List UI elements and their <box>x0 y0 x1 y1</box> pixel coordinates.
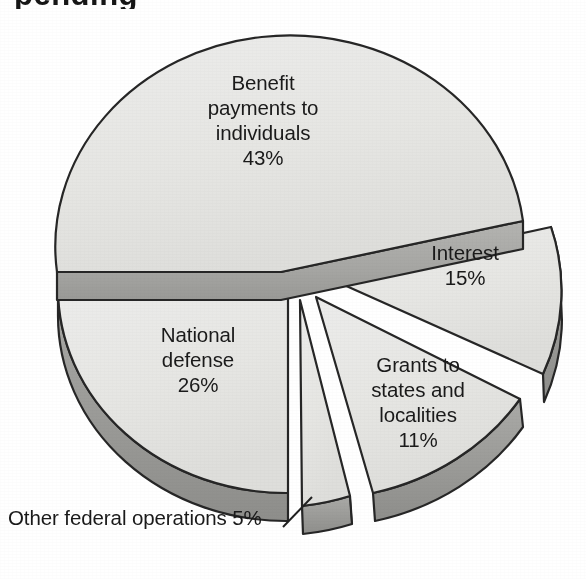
slice-label-line: localities <box>343 402 493 427</box>
slice-label-national-defense: National defense 26% <box>118 322 278 397</box>
slice-label-line: states and <box>343 377 493 402</box>
slice-label-benefit-payments: Benefit payments to individuals 43% <box>163 70 363 170</box>
slice-label-line: Grants to <box>343 352 493 377</box>
slice-percent-national-defense: 26% <box>118 372 278 397</box>
slice-label-other-federal-operations: Other federal operations 5% <box>8 505 262 530</box>
slice-label-line: individuals <box>163 120 363 145</box>
slice-label-grants-to-states: Grants to states and localities 11% <box>343 352 493 452</box>
slice-percent-grants-to-states: 11% <box>343 427 493 452</box>
slice-label-interest: Interest 15% <box>400 240 530 290</box>
slice-label-line: defense <box>118 347 278 372</box>
slice-label-line: payments to <box>163 95 363 120</box>
pie-chart-figure: pending <box>0 0 586 579</box>
page-title: pending <box>14 0 138 9</box>
slice-label-line: Benefit <box>163 70 363 95</box>
slice-label-line: Interest <box>400 240 530 265</box>
cropped-title-strip: pending <box>0 0 586 9</box>
slice-percent-interest: 15% <box>400 265 530 290</box>
slice-label-line: National <box>118 322 278 347</box>
slice-percent-benefit-payments: 43% <box>163 145 363 170</box>
